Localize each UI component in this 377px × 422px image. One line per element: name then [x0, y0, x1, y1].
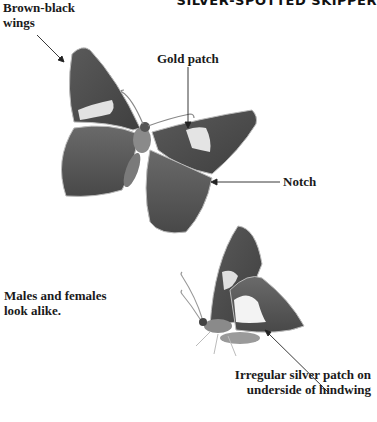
butterfly-side-view [181, 226, 304, 356]
butterfly-illustration [0, 0, 377, 422]
butterfly-open-wings [62, 48, 257, 233]
